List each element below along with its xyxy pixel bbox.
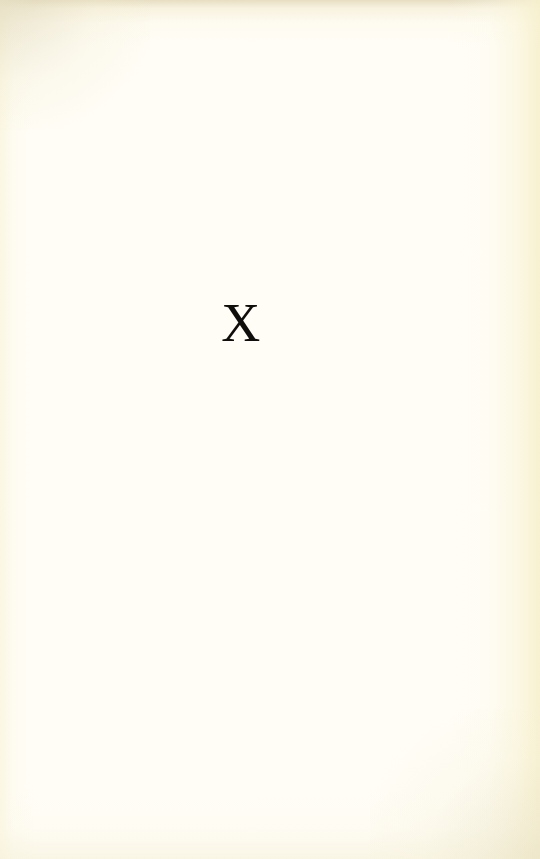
chapter-number: X — [0, 296, 482, 350]
paper-background — [0, 0, 540, 859]
scanned-page: X — [0, 0, 540, 859]
